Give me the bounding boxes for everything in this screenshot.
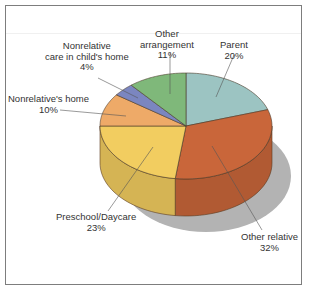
label-pct: 32% bbox=[241, 243, 298, 254]
label-text: Preschool/Daycare bbox=[56, 212, 136, 223]
label-other-relative: Other relative 32% bbox=[241, 232, 298, 253]
label-text: Nonrelative bbox=[45, 41, 129, 52]
label-parent: Parent 20% bbox=[220, 40, 248, 61]
label-pct: 4% bbox=[45, 62, 129, 73]
label-nonrelative-care: Nonrelative care in child's home 4% bbox=[45, 41, 129, 73]
label-pct: 10% bbox=[8, 105, 89, 116]
label-text: Nonrelative's home bbox=[8, 94, 89, 105]
label-text: Other relative bbox=[241, 232, 298, 243]
label-preschool: Preschool/Daycare 23% bbox=[56, 212, 136, 233]
label-pct: 23% bbox=[56, 223, 136, 234]
label-text: Parent bbox=[220, 40, 248, 51]
pie-slices bbox=[100, 73, 272, 216]
label-text: Other bbox=[140, 29, 194, 40]
label-pct: 20% bbox=[220, 51, 248, 62]
label-nonrelatives-home: Nonrelative's home 10% bbox=[8, 94, 89, 115]
label-other-arrangement: Other arrangement 11% bbox=[140, 29, 194, 61]
label-pct: 11% bbox=[140, 50, 194, 61]
